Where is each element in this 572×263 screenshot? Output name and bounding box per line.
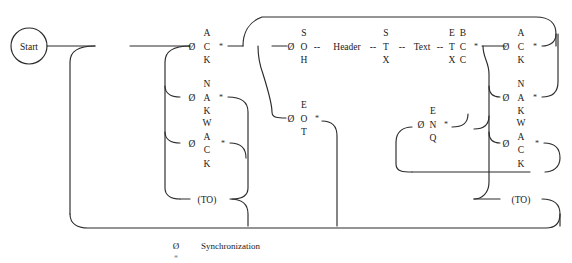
node-nak2-line3: K [518, 106, 525, 116]
edge-ack2-to-top-bus [542, 34, 556, 46]
sync-symbol-eot: Ø [288, 114, 295, 124]
sync-symbol-enq2: Ø [418, 120, 425, 130]
edge-trunk-to-wack2 [489, 132, 500, 143]
node-eot-line1: E [301, 100, 307, 110]
branch-marker-ack1: * [219, 42, 223, 51]
edge-nak1-loop [228, 97, 248, 199]
edge-trunk-to-nak2 [489, 86, 500, 97]
edge-enq2-left-loop [396, 127, 412, 172]
node-ack1-line3: K [204, 55, 211, 65]
node-wack1-line1: W [203, 118, 212, 128]
branch-marker-nak1: * [219, 93, 223, 102]
sync-symbol-nak2: Ø [503, 93, 510, 103]
dash-soh-header: -- [314, 42, 320, 52]
diagram-canvas: Start Ø A C K * Ø N A K * Ø W A C K * (T… [0, 0, 572, 263]
node-nak2-line1: N [518, 79, 525, 89]
legend-text-sync: Synchronization [201, 241, 260, 251]
edge-right-trunk-down [474, 46, 489, 199]
node-wack1-line3: C [204, 145, 210, 155]
branch-marker-wack1: * [221, 139, 225, 148]
node-to1-label: (TO) [198, 195, 217, 206]
node-wack1-line4: K [204, 159, 211, 169]
edge-right-trunk-to-wack2-stub [474, 116, 489, 129]
node-bcc-line1: B [460, 28, 466, 38]
node-bcc-line2: C [460, 42, 466, 52]
edge-enq2-out-up [452, 114, 468, 127]
edge-trunk-to-wack1 [165, 132, 180, 143]
node-soh-line2: O [301, 42, 308, 52]
node-ack2-line1: A [518, 28, 525, 38]
sync-symbol-soh: Ø [288, 42, 295, 52]
branch-marker-nak2: * [533, 93, 537, 102]
node-to2-label: (TO) [512, 195, 531, 206]
node-nak1-line3: K [204, 106, 211, 116]
node-wack2-line3: C [518, 145, 524, 155]
sync-symbol-wack1: Ø [189, 139, 196, 149]
node-bcc-line3: C [460, 55, 466, 65]
branch-marker-enq2: * [444, 120, 448, 129]
edge-eot-down-to-bottom-bus [322, 121, 337, 226]
dash-stx-text: -- [399, 42, 405, 52]
dash-text-etx: -- [437, 42, 443, 52]
node-nak1-line2: A [204, 93, 211, 103]
edge-wack2-loop [544, 143, 560, 172]
node-etx-line1: E [449, 28, 455, 38]
legend-symbol-secondary: * [174, 253, 179, 263]
node-text-label: Text [414, 42, 431, 52]
node-eot-line2: O [301, 114, 308, 124]
node-enq2-line1: E [430, 106, 436, 116]
edge-trunk-to-nak1 [165, 86, 180, 97]
sync-symbol-wack2: Ø [503, 139, 510, 149]
node-enq2-line3: Q [430, 133, 437, 143]
edge-bottom-return-bus [70, 214, 560, 228]
node-etx-line3: X [449, 55, 456, 65]
node-wack2-line1: W [517, 118, 526, 128]
node-soh-line3: H [301, 55, 308, 65]
node-soh-line1: S [301, 28, 306, 38]
node-ack2-line3: K [518, 55, 525, 65]
flow-diagram-svg: Start Ø A C K * Ø N A K * Ø W A C K * (T… [0, 0, 572, 263]
start-node-label: Start [20, 42, 38, 52]
edge-ack1-down-to-eot [258, 46, 286, 118]
node-stx-line1: S [383, 28, 388, 38]
node-ack1-line1: A [204, 28, 211, 38]
sync-symbol-ack2: Ø [503, 42, 510, 52]
node-wack2-line2: A [518, 132, 525, 142]
node-eot-line3: T [301, 127, 307, 137]
edge-trunk-left-branches [165, 46, 190, 199]
edge-wack1-loop [230, 143, 246, 158]
node-wack2-line4: K [518, 159, 525, 169]
node-stx-line2: T [383, 42, 389, 52]
edge-enq-down-to-left-bus [70, 46, 95, 214]
node-nak1-line1: N [204, 79, 211, 89]
branch-marker-ack2: * [533, 42, 537, 51]
sync-symbol-nak1: Ø [189, 93, 196, 103]
node-ack1-line2: C [204, 42, 210, 52]
node-ack2-line2: C [518, 42, 524, 52]
edge-to2-down [542, 199, 560, 226]
sync-symbol-ack1: Ø [189, 42, 196, 52]
dash-header-stx: -- [370, 42, 376, 52]
node-wack1-line2: A [204, 132, 211, 142]
branch-marker-bcc: * [474, 42, 478, 51]
node-header-label: Header [333, 42, 361, 52]
edge-to1-out [230, 199, 248, 226]
node-enq2-line2: N [430, 120, 437, 130]
branch-marker-eot: * [315, 114, 319, 123]
legend-symbol-sync: Ø [173, 241, 180, 251]
node-etx-line2: T [449, 42, 455, 52]
branch-marker-wack2: * [535, 139, 539, 148]
node-stx-line3: X [383, 55, 390, 65]
node-nak2-line2: A [518, 93, 525, 103]
